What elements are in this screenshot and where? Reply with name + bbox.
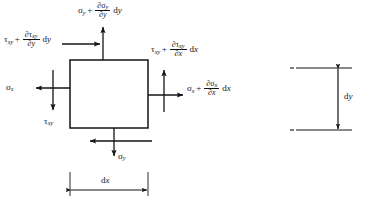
- label-bottom-normal-stress: σy: [118, 152, 126, 162]
- top-num-subscript: y: [106, 3, 109, 10]
- bottomnormal-sigma-subscript: y: [123, 154, 126, 161]
- dimension-label-dy: dy: [344, 92, 353, 101]
- top-fraction: ∂σy∂y: [95, 2, 110, 20]
- dy-var: y: [349, 91, 353, 101]
- rightshear-plus-operator: +: [160, 44, 168, 54]
- diagram-vector-layer: [0, 0, 368, 210]
- leftnormal-sigma-subscript: x: [11, 85, 14, 92]
- label-left-normal-stress: σx: [6, 83, 14, 93]
- label-right-normal-stress: σx+∂σx∂xdx: [187, 80, 231, 98]
- rightnormal-plus-operator: +: [195, 83, 203, 93]
- rightnormal-den-var: x: [212, 88, 216, 97]
- lefttop-num-partial: ∂τ: [25, 30, 32, 39]
- label-left-shear-bottom: τxy: [44, 117, 53, 127]
- lefttop-fraction: ∂τxy∂y: [23, 31, 40, 49]
- rightshear-den-var: x: [178, 49, 182, 58]
- rightnormal-num-partial: ∂σ: [206, 79, 214, 88]
- lefttop-den-var: y: [31, 39, 35, 48]
- leftshearbottom-tau-subscript: xy: [48, 119, 54, 126]
- top-den-var: y: [103, 10, 107, 19]
- lefttop-plus-operator: +: [13, 34, 21, 44]
- label-right-shear-stress: τxy+∂τxy∂xdx: [151, 41, 198, 59]
- lefttop-differential-var: y: [47, 34, 51, 44]
- rightshear-fraction: ∂τxy∂x: [170, 41, 187, 59]
- lefttop-num-subscript: xy: [32, 32, 38, 39]
- rightnormal-num-subscript: x: [215, 81, 218, 88]
- label-left-shear-stress: τxy+∂τxy∂ydy: [4, 31, 51, 49]
- top-differential-var: y: [118, 5, 122, 15]
- rightnormal-differential-var: x: [227, 83, 231, 93]
- dimension-label-dx: dx: [101, 176, 110, 185]
- rightnormal-fraction: ∂σx∂x: [204, 80, 219, 98]
- label-top-normal-stress: σy+∂σy∂ydy: [78, 2, 122, 20]
- differential-element-box: [70, 60, 148, 128]
- rightshear-num-partial: ∂τ: [172, 40, 179, 49]
- top-num-partial: ∂σ: [97, 1, 105, 10]
- rightshear-num-subscript: xy: [179, 42, 185, 49]
- dx-var: x: [106, 175, 110, 185]
- top-plus-operator: +: [86, 5, 94, 15]
- figure-canvas: σy+∂σy∂ydy τxy+∂τxy∂ydy τxy+∂τxy∂xdx σx+…: [0, 0, 368, 210]
- rightshear-differential-var: x: [194, 44, 198, 54]
